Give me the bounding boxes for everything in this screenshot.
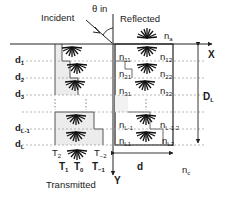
n-22-label: n22 — [160, 69, 172, 80]
n-c-label: nc — [182, 165, 190, 176]
layer-label-dL-1: dL-1 — [15, 123, 30, 134]
n-21-label: n21 — [119, 69, 131, 80]
reflected-label: Reflected — [120, 14, 160, 24]
order-tm2-label: T−2 — [94, 148, 107, 159]
order-t2-label: T2 — [52, 148, 61, 159]
order-t1-label: T1 — [59, 162, 68, 173]
layer-label-d2: d2 — [15, 72, 24, 83]
n-L-1-2-label: nL-1 2 — [160, 120, 179, 131]
layer-label-dL: dL — [15, 139, 24, 150]
n-32-label: n32 — [160, 86, 172, 97]
incident-label: Incident — [41, 13, 74, 23]
x-axis-label: X — [208, 50, 215, 60]
n-L2-label: nL2 — [162, 136, 174, 147]
theta-angle-arc — [103, 28, 113, 35]
n-L-1-1-label: nL-1 — [119, 120, 133, 131]
grating-diagram — [0, 0, 231, 202]
transmitted-fan-icon — [67, 150, 87, 160]
order-tm1-label: T−1 — [92, 162, 105, 173]
reflected-fan-icon — [137, 28, 157, 38]
incident-arrowhead-icon — [93, 27, 100, 33]
period-label: d — [137, 162, 143, 172]
n-31-label: n31 — [119, 86, 131, 97]
order-t0-label: T0 — [74, 162, 83, 173]
layer-label-d1: d1 — [15, 55, 24, 66]
total-depth-label: DL — [203, 92, 214, 103]
y-axis-label: Y — [114, 176, 121, 186]
transmitted-label: Transmitted — [46, 180, 96, 190]
n-L1-label: nL1 — [119, 136, 131, 147]
layer-label-d3: d3 — [15, 89, 24, 100]
left-staircase-profile — [55, 44, 103, 145]
n-a-label: na — [164, 31, 173, 42]
theta-in-label: θ in — [92, 4, 107, 14]
n-11-label: n11 — [119, 52, 131, 63]
n-12-label: n12 — [160, 52, 172, 63]
